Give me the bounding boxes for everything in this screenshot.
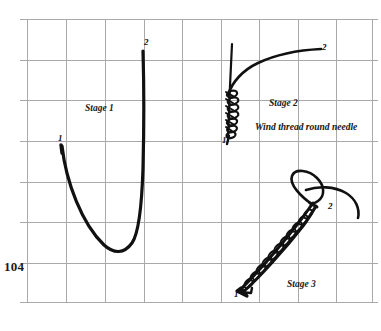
stage-1-point-1-label: 1 xyxy=(58,134,63,143)
stage-2-caption: Wind thread round needle xyxy=(255,123,357,133)
stage-1-drawing xyxy=(61,51,144,252)
stage-2-thread-to-point-2 xyxy=(228,49,321,95)
stage-1-label: Stage 1 xyxy=(85,104,114,114)
stage-2-label: Stage 2 xyxy=(269,99,298,109)
stage-3-drawing xyxy=(237,171,359,296)
stage-3-label: Stage 3 xyxy=(287,280,316,290)
graph-paper-grid xyxy=(20,19,378,303)
stage-1-thread-curve xyxy=(62,51,144,252)
stage-1-start-tail xyxy=(61,145,62,153)
stage-2-point-1-label: 1 xyxy=(222,136,227,145)
stage-1-point-2-label: 2 xyxy=(144,38,149,47)
coil-loop xyxy=(302,208,314,220)
coil-loop xyxy=(243,276,256,289)
figure-root: 104 Stage 1 1 2 Stage 2 Wind thread roun… xyxy=(0,0,381,331)
page-number: 104 xyxy=(4,260,24,273)
stage-2-point-2-label: 2 xyxy=(322,43,327,52)
stage-3-point-1-label: 1 xyxy=(234,290,239,299)
stage-3-point-2-label: 2 xyxy=(328,202,333,211)
